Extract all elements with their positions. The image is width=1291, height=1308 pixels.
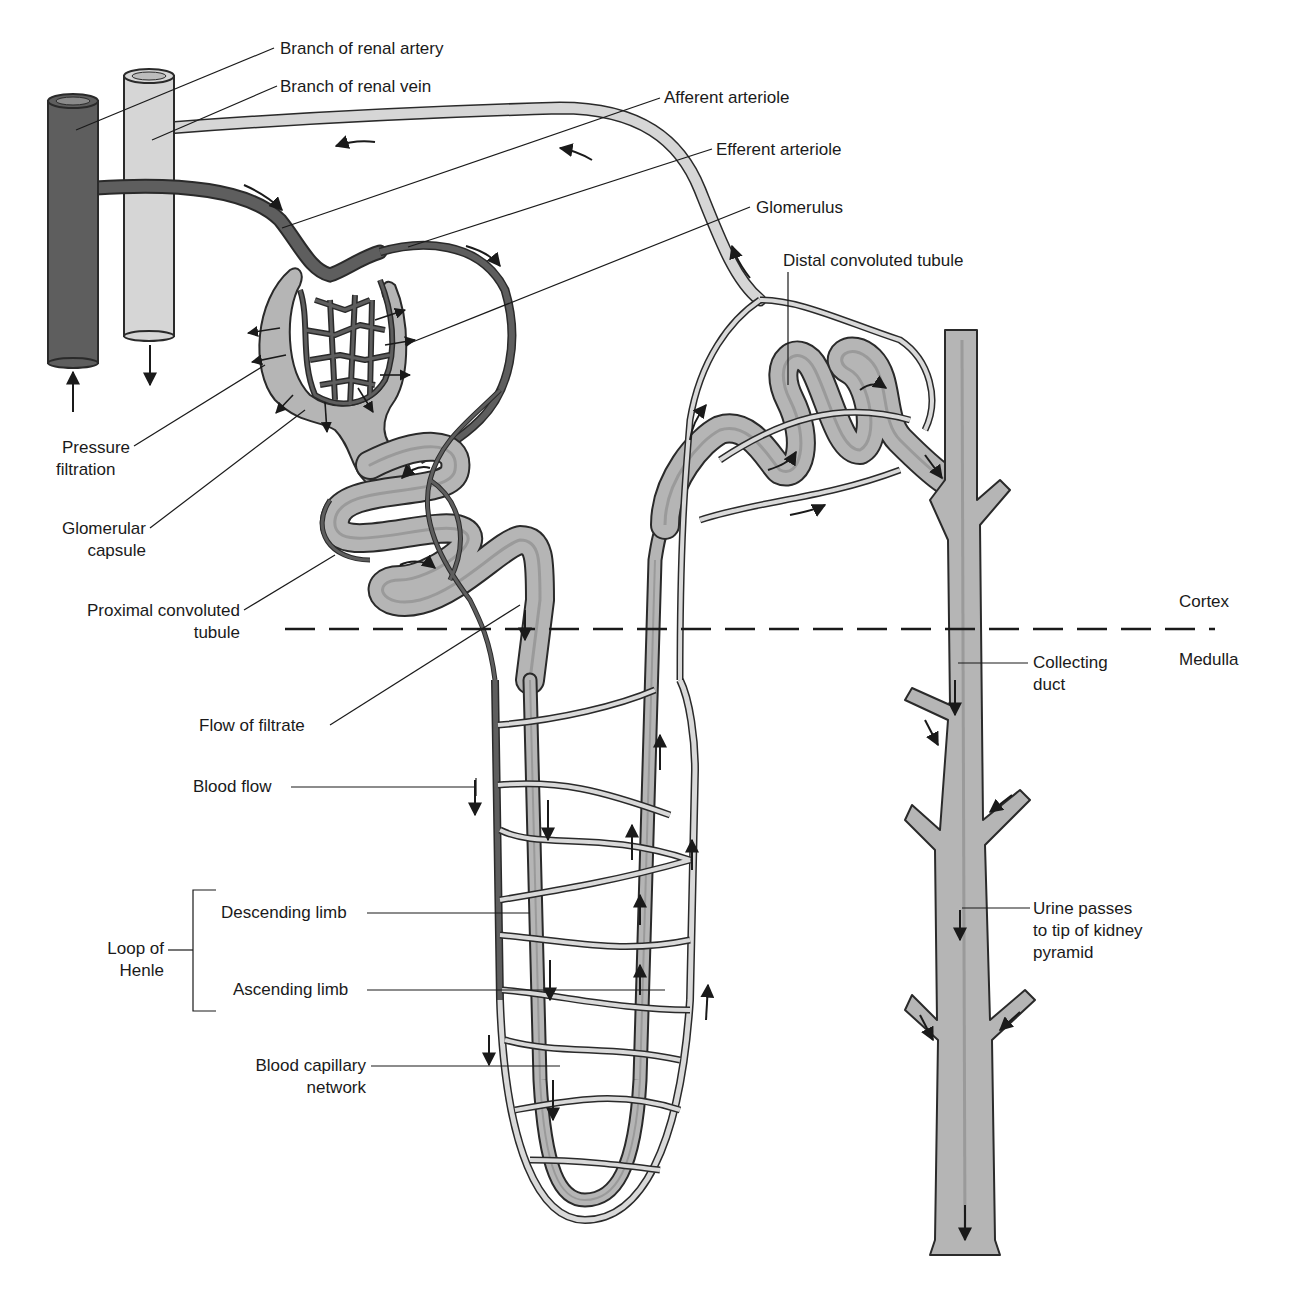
glomerulus xyxy=(300,280,392,405)
label-glomerular-capsule: Glomerular capsule xyxy=(30,518,146,562)
label-collecting-duct: Collecting duct xyxy=(1033,652,1108,696)
label-renal-artery: Branch of renal artery xyxy=(280,38,443,60)
label-afferent-arteriole: Afferent arteriole xyxy=(664,87,789,109)
label-loop-of-henle: Loop of Henle xyxy=(80,938,164,982)
nephron-diagram: Branch of renal artery Branch of renal v… xyxy=(0,0,1291,1308)
label-efferent-arteriole: Efferent arteriole xyxy=(716,139,841,161)
label-glomerulus: Glomerulus xyxy=(756,197,843,219)
label-pressure-filtration: Pressure filtration xyxy=(40,437,130,481)
label-cortex: Cortex xyxy=(1179,591,1229,613)
label-medulla: Medulla xyxy=(1179,649,1239,671)
label-distal-convoluted-tubule: Distal convoluted tubule xyxy=(783,250,964,272)
filtrate-flow-arrows xyxy=(400,385,1020,1241)
renal-vein xyxy=(124,69,760,341)
proximal-convoluted-tubule xyxy=(335,447,540,680)
label-flow-of-filtrate: Flow of filtrate xyxy=(199,715,305,737)
label-blood-capillary-network: Blood capillary network xyxy=(200,1055,366,1099)
label-urine-passes: Urine passes to tip of kidney pyramid xyxy=(1033,898,1143,964)
label-renal-vein: Branch of renal vein xyxy=(280,76,431,98)
label-ascending-limb: Ascending limb xyxy=(233,979,348,1001)
label-proximal-convoluted-tubule: Proximal convoluted tubule xyxy=(40,600,240,644)
label-descending-limb: Descending limb xyxy=(221,902,347,924)
label-blood-flow: Blood flow xyxy=(193,776,271,798)
